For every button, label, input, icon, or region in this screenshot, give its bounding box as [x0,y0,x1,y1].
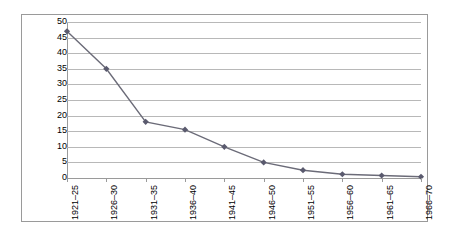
gridline-0 [67,178,421,179]
x-axis-tick-5 [264,178,265,182]
data-point-marker [261,159,267,165]
y-axis-tick-labels: 50454035302520151050 [43,15,67,185]
chart-frame: 50454035302520151050 1921–251926–301931–… [21,14,428,222]
y-axis-label-10: 10 [45,142,67,151]
y-axis-label-35: 35 [45,64,67,73]
y-axis-label-50: 50 [45,17,67,26]
data-point-marker [221,144,227,150]
x-axis-label-6: 1951–55 [307,185,316,231]
x-axis-label-0: 1921–25 [71,185,80,231]
x-axis-tick-1 [106,178,107,182]
x-axis-label-9: 1966–70 [425,185,434,231]
y-axis-label-0: 0 [45,173,67,182]
x-axis-label-1: 1926–30 [110,185,119,231]
data-point-marker [182,127,188,133]
x-axis-tick-3 [185,178,186,182]
chart-screenshot: 50454035302520151050 1921–251926–301931–… [0,0,449,239]
x-axis-label-4: 1941–45 [228,185,237,231]
x-axis-tick-4 [224,178,225,182]
y-axis-label-5: 5 [45,157,67,166]
y-axis-label-25: 25 [45,95,67,104]
x-axis-tick-0 [67,178,68,182]
x-axis-tick-2 [146,178,147,182]
x-axis-tick-8 [382,178,383,182]
y-axis-label-30: 30 [45,79,67,88]
series-line-chart [67,22,421,178]
x-axis-label-5: 1946–50 [268,185,277,231]
x-axis-label-3: 1936–40 [189,185,198,231]
data-point-marker [300,167,306,173]
y-axis-label-20: 20 [45,111,67,120]
data-point-marker [339,171,345,177]
x-axis-label-7: 1956–60 [346,185,355,231]
y-axis-label-15: 15 [45,126,67,135]
y-axis-label-45: 45 [45,33,67,42]
x-axis-tick-7 [342,178,343,182]
x-axis-tick-9 [421,178,422,182]
x-axis-tick-6 [303,178,304,182]
y-axis-label-40: 40 [45,48,67,57]
x-axis-label-2: 1931–35 [150,185,159,231]
series-line-0 [67,31,421,176]
x-axis-label-8: 1961–65 [386,185,395,231]
